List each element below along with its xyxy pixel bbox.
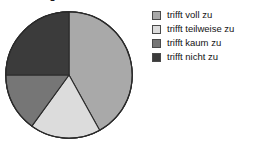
pie-slices xyxy=(6,12,132,138)
legend-item-trifft-nicht-zu[interactable]: trifft nicht zu xyxy=(152,50,255,64)
legend: trifft voll zu trifft teilweise zu triff… xyxy=(152,8,255,64)
legend-item-label: trifft kaum zu xyxy=(167,36,221,50)
legend-item-label: trifft voll zu xyxy=(167,8,212,22)
pie-chart xyxy=(5,11,134,140)
pie-chart-svg xyxy=(5,11,134,140)
pie-chart-figure: Abbildung trifft voll zu trifft teilweis… xyxy=(0,0,255,145)
figure-title-cutoff: Abbildung xyxy=(0,0,150,1)
color-swatch-icon xyxy=(152,11,161,20)
legend-item-label: trifft nicht zu xyxy=(167,50,218,64)
legend-item-trifft-voll-zu[interactable]: trifft voll zu xyxy=(152,8,255,22)
legend-item-trifft-teilweise-zu[interactable]: trifft teilweise zu xyxy=(152,22,255,36)
color-swatch-icon xyxy=(152,53,161,62)
color-swatch-icon xyxy=(152,25,161,34)
pie-slice-trifft-nicht-zu[interactable] xyxy=(6,12,69,75)
legend-item-trifft-kaum-zu[interactable]: trifft kaum zu xyxy=(152,36,255,50)
legend-item-label: trifft teilweise zu xyxy=(167,22,234,36)
color-swatch-icon xyxy=(152,39,161,48)
